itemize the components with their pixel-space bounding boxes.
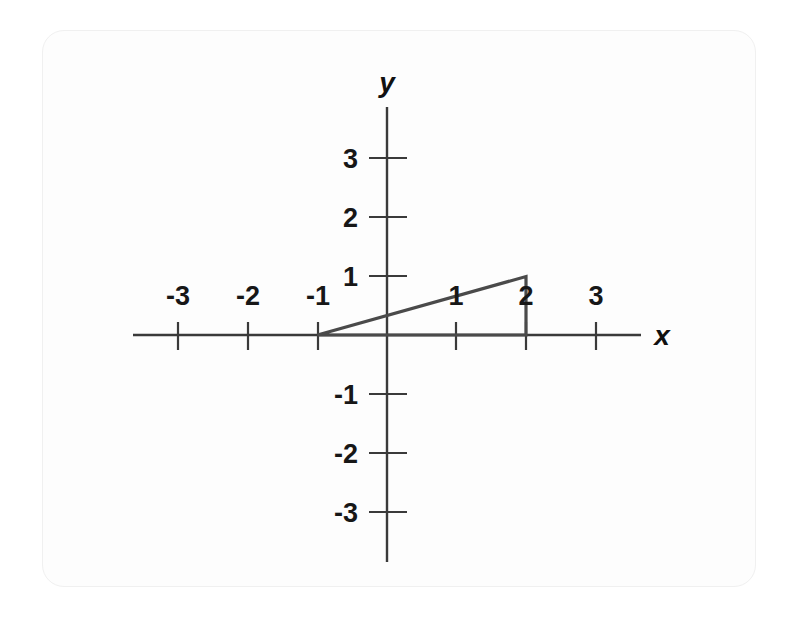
y-tick-label-neg2: -2: [334, 439, 358, 469]
x-tick-label-pos3: 3: [588, 281, 603, 311]
x-tick-label-neg2: -2: [236, 281, 260, 311]
y-tick-label-pos2: 2: [343, 203, 358, 233]
x-tick-label-pos2: 2: [518, 281, 533, 311]
x-tick-label-pos1: 1: [448, 281, 463, 311]
y-tick-label-neg3: -3: [334, 498, 358, 528]
y-tick-label-pos3: 3: [343, 144, 358, 174]
coordinate-plane-plot: -3 -2 -1 1 2 3 3 2 1 -1 -2 -3 y x: [0, 0, 801, 618]
x-tick-label-neg3: -3: [166, 281, 190, 311]
x-tick-label-neg1: -1: [306, 281, 330, 311]
y-tick-label-neg1: -1: [334, 380, 358, 410]
y-tick-label-pos1: 1: [343, 262, 358, 292]
figure-root: -3 -2 -1 1 2 3 3 2 1 -1 -2 -3 y x: [0, 0, 801, 618]
x-axis-label: x: [652, 320, 671, 351]
y-axis-label: y: [377, 67, 396, 98]
